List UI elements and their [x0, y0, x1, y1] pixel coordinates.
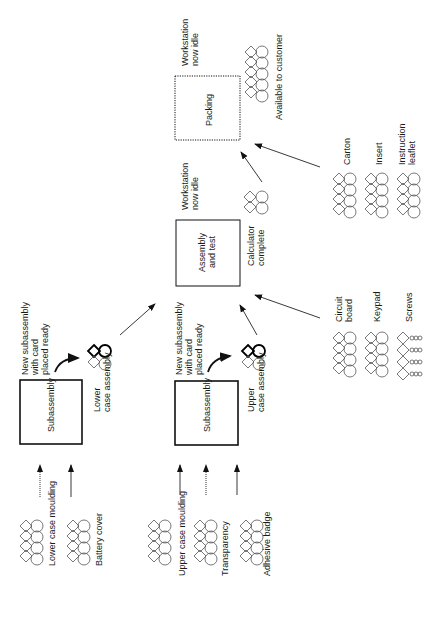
input-label: Carton — [342, 138, 352, 165]
flow-arrow — [255, 144, 320, 167]
product-label: Calculator — [246, 225, 256, 266]
screws-icon — [397, 332, 422, 380]
input-label: Upper case moulding — [177, 491, 187, 576]
flow-arrow — [120, 304, 155, 335]
product-label: Upper — [246, 387, 256, 412]
station-label: Subassembly — [202, 377, 212, 432]
calculator-assembly-flow-diagram: Lower case moulding Battery cover Subass… — [0, 0, 430, 624]
input-label: Instruction — [397, 123, 407, 165]
assembly-input-keypad: Keypad — [365, 291, 388, 377]
lower-input-battery-cover: Battery cover — [67, 513, 104, 566]
stock-pile-icon — [397, 173, 420, 218]
curved-arrow — [208, 356, 230, 372]
stock-pile-icon — [20, 520, 43, 565]
lower-output-note: New subassembly with card placed ready — [20, 301, 50, 376]
packing-input-insert: Insert — [365, 142, 388, 218]
product-label: case assembly — [102, 352, 112, 412]
svg-text:with card: with card — [184, 339, 194, 376]
svg-text:New subassembly: New subassembly — [20, 301, 30, 375]
flow-arrow — [241, 152, 262, 182]
input-label: Transparency — [220, 521, 230, 576]
assembly-input-circuit-board: Circuit board — [333, 296, 356, 377]
input-label: Insert — [374, 142, 384, 165]
product-label: Lower — [92, 387, 102, 412]
input-label: Battery cover — [94, 513, 104, 566]
input-label: Screws — [404, 292, 414, 322]
stock-pile-icon — [333, 173, 356, 218]
station-label: Packing — [204, 94, 214, 126]
stock-pile-icon — [333, 332, 356, 377]
product-label: case assembly — [256, 352, 266, 412]
station-status: Workstation — [180, 163, 190, 210]
svg-text:with card: with card — [30, 339, 40, 376]
station-status: now idle — [190, 33, 200, 66]
upper-input-adhesive-badge: Adhesive badge — [240, 511, 272, 576]
calculator-complete-product — [244, 191, 268, 214]
input-label: board — [344, 299, 354, 322]
station-label: Assembly — [197, 232, 207, 272]
svg-text:placed ready: placed ready — [194, 323, 204, 375]
stock-pile-icon — [240, 520, 263, 565]
station-status: Workstation — [180, 19, 190, 66]
upper-input-transparency: Transparency — [194, 520, 230, 576]
stock-pile-icon — [148, 520, 171, 565]
input-label: Keypad — [372, 291, 382, 322]
stock-pile-icon — [194, 520, 217, 565]
product-label: Available to customer — [274, 34, 284, 120]
station-status: now idle — [190, 177, 200, 210]
upper-output-note: New subassembly with card placed ready — [174, 301, 204, 376]
finished-goods-pile-icon — [245, 46, 268, 102]
stock-pile-icon — [365, 173, 388, 218]
input-label: Adhesive badge — [262, 511, 272, 576]
input-label: Lower case moulding — [47, 481, 57, 566]
assembly-input-screws: Screws — [397, 292, 422, 380]
svg-text:New subassembly: New subassembly — [174, 301, 184, 375]
input-label: leaflet — [407, 140, 417, 165]
upper-input-upper-case-moulding: Upper case moulding — [148, 491, 187, 576]
flow-arrow — [240, 305, 257, 335]
stock-pile-icon — [365, 332, 388, 377]
station-label: Subassembly — [46, 377, 56, 432]
packing-input-instruction-leaflet: Instruction leaflet — [397, 123, 420, 218]
svg-text:placed ready: placed ready — [40, 323, 50, 375]
input-label: Circuit — [334, 296, 344, 322]
packing-input-carton: Carton — [333, 138, 356, 218]
flow-arrow — [255, 295, 320, 318]
station-label: and test — [207, 235, 217, 268]
lower-input-lower-case-moulding: Lower case moulding — [20, 481, 57, 566]
product-label: complete — [256, 229, 266, 266]
curved-arrow — [55, 358, 78, 372]
stock-pile-icon — [67, 520, 90, 565]
